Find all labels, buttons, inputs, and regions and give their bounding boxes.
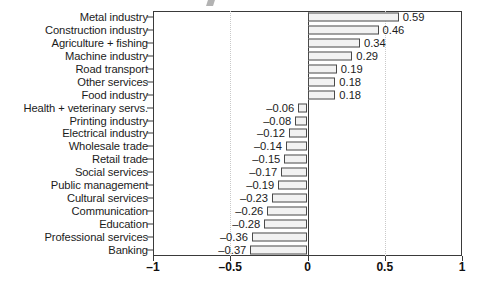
category-label: Cultural services [67,192,148,204]
y-tick-mark [147,133,153,134]
y-tick-mark [147,17,153,18]
bar-value-label: –0.17 [249,166,277,178]
bar [308,65,337,74]
y-tick-mark [147,249,153,250]
y-tick-mark [147,210,153,211]
bar-value-label: –0.23 [240,192,268,204]
category-label: Wholesale trade [69,140,148,152]
bar-row: Education–0.28 [0,217,477,230]
y-tick-mark [147,43,153,44]
bar-value-label: –0.14 [254,140,282,152]
bar-value-label: 0.29 [356,50,378,62]
bar [281,168,307,177]
x-tick-label: 1 [459,260,466,274]
bar-value-label: –0.36 [220,231,248,243]
y-tick-mark [147,146,153,147]
bar-row: Social services–0.17 [0,166,477,179]
x-tick-label: 0 [304,260,311,274]
bar-row: Health + veterinary servs.–0.06 [0,101,477,114]
bar-row: Other services0.18 [0,75,477,88]
bar-row: Machine industry0.29 [0,50,477,63]
y-tick-mark [147,172,153,173]
category-label: Construction industry [45,24,148,36]
bar [308,77,336,86]
y-tick-mark [147,94,153,95]
bar-row: Wholesale trade–0.14 [0,140,477,153]
bar-value-label: –0.28 [232,218,260,230]
category-label: Electrical industry [62,127,148,139]
bar-row: Printing industry–0.08 [0,114,477,127]
bar-row: Electrical industry–0.12 [0,127,477,140]
bar [298,103,307,112]
bar [278,181,307,190]
bar [284,155,307,164]
bar-rows: Metal industry0.59Construction industry0… [0,11,477,256]
category-label: Road transport [75,63,148,75]
bar-value-label: –0.15 [252,153,280,165]
bar [267,206,307,215]
bar-value-label: 0.19 [341,63,363,75]
category-label: Agriculture + fishing [52,37,148,49]
bar [286,142,308,151]
bar-row: Professional services–0.36 [0,230,477,243]
y-tick-mark [147,159,153,160]
category-label: Food industry [82,89,148,101]
bar-value-label: 0.34 [364,37,386,49]
bar [252,232,308,241]
category-label: Other services [77,76,148,88]
category-label: Public management [51,179,148,191]
category-label: Metal industry [80,11,148,23]
horizontal-bar-chart: Metal industry0.59Construction industry0… [0,0,477,283]
x-tick-label: 0.5 [376,260,393,274]
bar [308,39,361,48]
bar [295,116,307,125]
bar-row: Retail trade–0.15 [0,153,477,166]
bar [308,13,399,22]
bar-value-label: –0.08 [263,115,291,127]
x-tick-label: –1 [146,260,159,274]
y-tick-mark [147,56,153,57]
category-label: Social services [75,166,148,178]
bar-value-label: 0.18 [339,76,361,88]
x-tick-label: –0.5 [219,260,242,274]
y-tick-mark [147,223,153,224]
category-label: Banking [108,244,148,256]
bar-row: Metal industry0.59 [0,11,477,24]
bar-row: Road transport0.19 [0,63,477,76]
category-label: Machine industry [65,50,148,62]
y-tick-mark [147,185,153,186]
y-tick-mark [147,81,153,82]
bar-row: Banking–0.37 [0,243,477,256]
bar-value-label: 0.46 [383,24,405,36]
bar [308,90,336,99]
bar-value-label: –0.19 [246,179,274,191]
y-tick-mark [147,120,153,121]
scan-artifact [206,0,215,6]
y-tick-mark [147,30,153,31]
bar [272,193,308,202]
bar-row: Cultural services–0.23 [0,192,477,205]
bar-row: Food industry0.18 [0,88,477,101]
bar-row: Construction industry0.46 [0,24,477,37]
y-tick-mark [147,69,153,70]
category-label: Retail trade [92,153,148,165]
bar [308,52,353,61]
bar-row: Public management–0.19 [0,179,477,192]
category-label: Health + veterinary servs. [23,102,148,114]
bar-value-label: –0.26 [235,205,263,217]
bar-row: Agriculture + fishing0.34 [0,37,477,50]
bar [308,26,379,35]
bar [289,129,308,138]
y-tick-mark [147,236,153,237]
bar-value-label: –0.37 [218,244,246,256]
y-tick-mark [147,197,153,198]
bar-value-label: –0.12 [257,127,285,139]
bar [264,219,307,228]
category-label: Education [99,218,148,230]
bar-row: Communication–0.26 [0,204,477,217]
y-tick-mark [147,107,153,108]
category-label: Communication [72,205,148,217]
bar-value-label: 0.18 [339,89,361,101]
category-label: Professional services [44,231,148,243]
bar [250,245,307,254]
